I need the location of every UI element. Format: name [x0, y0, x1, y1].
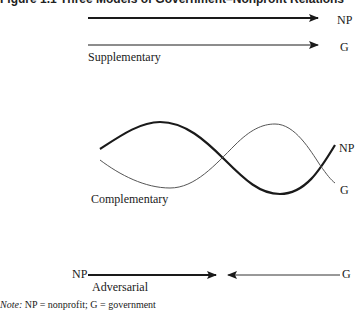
- note-text: NP = nonprofit; G = government: [22, 299, 156, 310]
- diagram-canvas: [0, 0, 364, 311]
- g-curve: [100, 124, 335, 188]
- complementary-np-label: NP: [339, 142, 354, 154]
- supplementary-np-label: NP: [337, 14, 352, 26]
- supplementary-label: Supplementary: [88, 51, 161, 63]
- figure-note: Note: NP = nonprofit; G = government: [0, 299, 156, 310]
- supplementary-model: [88, 18, 318, 45]
- adversarial-g-label: G: [342, 268, 351, 280]
- np-curve: [100, 122, 335, 194]
- complementary-model: [100, 122, 335, 194]
- note-prefix: Note:: [0, 299, 22, 310]
- complementary-g-label: G: [340, 184, 349, 196]
- complementary-label: Complementary: [91, 193, 168, 205]
- supplementary-g-label: G: [340, 41, 349, 53]
- adversarial-np-label: NP: [72, 268, 87, 280]
- adversarial-label: Adversarial: [92, 281, 148, 293]
